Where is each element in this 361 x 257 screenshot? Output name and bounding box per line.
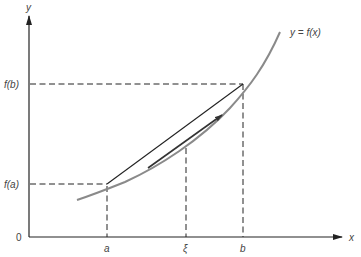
curve-label: y = f(x) [289,27,321,38]
y-axis-label: y [25,2,32,13]
secant-chord [107,84,243,184]
fb-label: f(b) [4,79,19,90]
x-axis-label: x [348,232,355,243]
xi-label: ξ [183,243,188,255]
tangent-line [148,115,222,168]
b-label: b [240,243,246,254]
a-label: a [104,243,110,254]
origin-label: 0 [16,232,22,243]
fa-label: f(a) [4,179,19,190]
mean-value-theorem-diagram: y x 0 f(b) f(a) a ξ b y = f(x) [0,0,361,257]
function-curve [77,32,280,200]
